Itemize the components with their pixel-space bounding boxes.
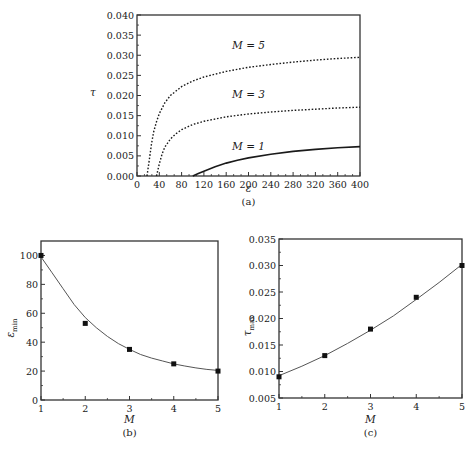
y-tick-label: 0.035 xyxy=(107,30,134,41)
y-tick-label: 0.010 xyxy=(107,130,134,141)
fit-curve xyxy=(41,257,218,371)
chart-c: 123450.0050.0100.0150.0200.0250.0300.035… xyxy=(241,234,465,439)
data-point xyxy=(216,369,221,374)
data-point xyxy=(277,374,282,379)
y-tick-label: 20 xyxy=(26,366,38,377)
x-tick-label: 1 xyxy=(38,403,44,414)
data-point xyxy=(322,353,327,358)
x-tick-label: 40 xyxy=(153,179,165,190)
y-tick-label: 40 xyxy=(26,337,38,348)
y-tick-label: 0.035 xyxy=(249,234,276,245)
data-point xyxy=(127,347,132,352)
x-axis-label: ε xyxy=(246,182,252,194)
x-tick-label: 1 xyxy=(276,401,282,412)
fit-curve xyxy=(279,264,462,375)
y-tick-label: 0 xyxy=(32,395,38,406)
x-tick-label: 320 xyxy=(306,179,324,190)
x-tick-label: 3 xyxy=(367,401,373,412)
figure: 040801201602002402803203604000.0000.0050… xyxy=(0,0,475,451)
x-tick-label: 400 xyxy=(351,179,369,190)
plot-frame xyxy=(279,239,462,398)
data-point xyxy=(414,295,419,300)
y-tick-label: 80 xyxy=(26,279,38,290)
data-point xyxy=(460,263,465,268)
x-tick-label: 2 xyxy=(82,403,88,414)
y-tick-label: 0.025 xyxy=(249,287,276,298)
y-axis-label: εmin xyxy=(4,318,19,338)
y-tick-label: 0.030 xyxy=(107,50,134,61)
chart-a: 040801201602002402803203604000.0000.0050… xyxy=(90,10,369,208)
x-tick-label: 4 xyxy=(171,403,177,414)
x-axis-label: M xyxy=(364,413,376,425)
x-tick-label: 5 xyxy=(459,401,465,412)
y-tick-label: 0.030 xyxy=(249,260,276,271)
x-axis-label: M xyxy=(123,413,135,425)
x-tick-label: 120 xyxy=(195,179,213,190)
y-tick-label: 100 xyxy=(20,250,38,261)
y-axis-label: τmax xyxy=(241,316,256,337)
y-tick-label: 0.025 xyxy=(107,70,134,81)
chart-b: 12345020406080100Mεmin(b) xyxy=(4,241,221,438)
y-tick-label: 0.010 xyxy=(249,366,276,377)
plot-frame xyxy=(41,241,218,400)
y-tick-label: 0.015 xyxy=(249,340,276,351)
y-tick-label: 0.040 xyxy=(107,10,134,21)
y-tick-label: 0.015 xyxy=(107,110,134,121)
data-point xyxy=(171,361,176,366)
data-point xyxy=(39,253,44,258)
x-tick-label: 80 xyxy=(176,179,188,190)
series-annotation: M = 3 xyxy=(231,88,265,100)
y-axis-label: τ xyxy=(90,86,96,98)
y-tick-label: 60 xyxy=(26,308,38,319)
y-tick-label: 0.005 xyxy=(107,150,134,161)
x-tick-label: 280 xyxy=(284,179,302,190)
series-M1 xyxy=(193,147,360,176)
caption: (c) xyxy=(364,427,378,438)
data-point xyxy=(368,327,373,332)
series-annotation: M = 1 xyxy=(231,140,265,152)
caption: (b) xyxy=(122,427,136,438)
series-M5 xyxy=(147,57,360,176)
series-annotation: M = 5 xyxy=(231,39,265,51)
x-tick-label: 160 xyxy=(217,179,235,190)
x-tick-label: 5 xyxy=(215,403,221,414)
x-tick-label: 240 xyxy=(262,179,280,190)
caption: (a) xyxy=(242,196,256,207)
y-tick-label: 0.005 xyxy=(249,393,276,404)
x-tick-label: 4 xyxy=(413,401,419,412)
x-tick-label: 0 xyxy=(134,179,140,190)
x-tick-label: 360 xyxy=(329,179,347,190)
y-tick-label: 0.000 xyxy=(107,171,134,182)
data-point xyxy=(83,321,88,326)
x-tick-label: 2 xyxy=(322,401,328,412)
y-tick-label: 0.020 xyxy=(107,90,134,101)
